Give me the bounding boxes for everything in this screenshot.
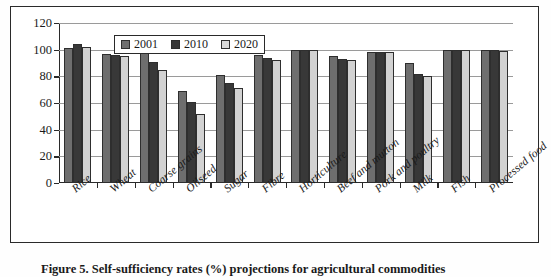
- y-axis-tick: [54, 23, 59, 24]
- bar: [111, 55, 120, 183]
- bar: [225, 83, 234, 183]
- y-axis-tick-label: 80: [40, 70, 53, 83]
- legend-entry: 2020: [221, 38, 258, 50]
- bar: [158, 70, 167, 183]
- bar: [385, 52, 394, 183]
- bar: [499, 51, 508, 183]
- bar: [120, 56, 129, 183]
- bar: [300, 50, 309, 183]
- y-axis-tick-label: 100: [33, 43, 52, 56]
- bar: [347, 60, 356, 183]
- bar: [461, 50, 470, 183]
- y-axis-tick-label: 120: [33, 17, 52, 30]
- bar: [149, 62, 158, 183]
- bar: [254, 55, 263, 183]
- figure-root: 020406080100120 RiceWheatCoarse grainsOi…: [0, 0, 551, 277]
- x-axis-labels: RiceWheatCoarse grainsOilseedSugarFibreH…: [59, 183, 513, 243]
- bar: [263, 58, 272, 183]
- bar: [423, 76, 432, 183]
- y-axis-tick: [54, 50, 59, 51]
- bar: [216, 75, 225, 183]
- bar: [443, 50, 452, 183]
- y-axis-tick-label: 20: [40, 150, 53, 163]
- legend-label: 2020: [234, 38, 258, 50]
- legend-swatch-icon: [121, 40, 130, 49]
- figure-caption: Figure 5. Self-sufficiency rates (%) pro…: [41, 262, 521, 277]
- bar: [64, 48, 73, 183]
- bar: [481, 50, 490, 183]
- y-axis-tick-label: 0: [46, 177, 52, 190]
- legend-entry: 2010: [171, 38, 208, 50]
- bar-group: [291, 23, 318, 183]
- bar: [452, 50, 461, 183]
- y-axis-tick: [54, 76, 59, 77]
- bar: [102, 54, 111, 183]
- bar: [272, 60, 281, 183]
- bar: [490, 50, 499, 183]
- bar: [414, 74, 423, 183]
- bar: [82, 47, 91, 183]
- legend-swatch-icon: [221, 40, 230, 49]
- legend-entry: 2001: [121, 38, 158, 50]
- bar-group: [481, 23, 508, 183]
- legend-swatch-icon: [171, 40, 180, 49]
- legend-label: 2001: [134, 38, 158, 50]
- y-axis-tick: [54, 103, 59, 104]
- y-axis-tick-label: 60: [40, 97, 53, 110]
- chart-frame: 020406080100120 RiceWheatCoarse grainsOi…: [10, 6, 539, 243]
- y-axis-tick-label: 40: [40, 123, 53, 136]
- bar: [291, 50, 300, 183]
- bar-group: [64, 23, 91, 183]
- bar-group: [443, 23, 470, 183]
- bar: [140, 48, 149, 183]
- y-axis-tick: [54, 130, 59, 131]
- y-axis-tick: [54, 156, 59, 157]
- bar: [309, 50, 318, 183]
- chart-legend: 200120102020: [114, 35, 265, 54]
- bar: [73, 44, 82, 183]
- legend-label: 2010: [184, 38, 208, 50]
